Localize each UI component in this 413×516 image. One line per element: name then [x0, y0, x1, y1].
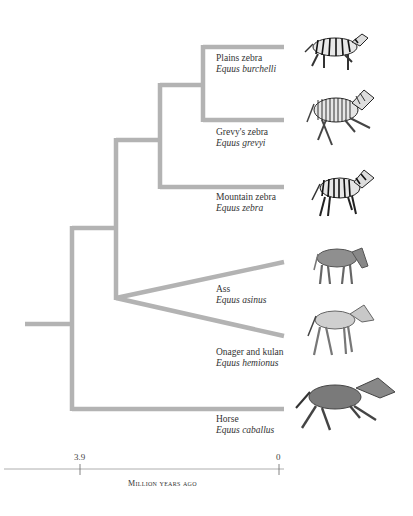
time-axis	[4, 464, 284, 475]
grevys-zebra-illustration	[307, 90, 374, 145]
horse-illustration	[296, 378, 395, 430]
label-plains-zebra: Plains zebra Equus burchelli	[216, 53, 276, 75]
phylogenetic-tree	[0, 0, 413, 516]
label-mountain-zebra: Mountain zebra Equus zebra	[216, 192, 276, 214]
axis-title: Million years ago	[128, 479, 197, 488]
label-onager-kulan: Onager and kulan Equus hemionus	[216, 347, 284, 369]
scientific-name: Equus asinus	[216, 295, 266, 306]
tick-label-3-9: 3.9	[74, 452, 85, 462]
label-horse: Horse Equus caballus	[216, 414, 274, 436]
common-name: Onager and kulan	[216, 347, 284, 358]
scientific-name: Equus hemionus	[216, 358, 284, 369]
label-grevys-zebra: Grevy's zebra Equus grevyi	[216, 127, 268, 149]
plains-zebra-illustration	[305, 34, 368, 70]
common-name: Horse	[216, 414, 274, 425]
scientific-name: Equus caballus	[216, 425, 274, 436]
common-name: Grevy's zebra	[216, 127, 268, 138]
ass-illustration	[314, 248, 368, 284]
common-name: Ass	[216, 284, 266, 295]
tick-label-0: 0	[276, 452, 281, 462]
label-ass: Ass Equus asinus	[216, 284, 266, 306]
common-name: Plains zebra	[216, 53, 276, 64]
mountain-zebra-illustration	[312, 170, 374, 216]
scientific-name: Equus grevyi	[216, 138, 268, 149]
scientific-name: Equus zebra	[216, 203, 276, 214]
onager-illustration	[308, 305, 374, 355]
common-name: Mountain zebra	[216, 192, 276, 203]
scientific-name: Equus burchelli	[216, 64, 276, 75]
